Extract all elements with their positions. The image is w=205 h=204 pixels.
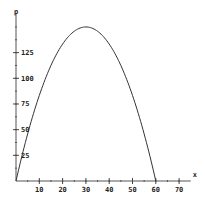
x-tick-label: 20 (58, 186, 66, 194)
data-curve (16, 27, 156, 181)
x-tick-label: 40 (105, 186, 113, 194)
x-axis-label: x (193, 171, 198, 179)
ticks (13, 27, 179, 184)
y-axis-label: p (14, 8, 18, 16)
x-tick-label: 30 (82, 186, 90, 194)
x-tick-label: 50 (128, 186, 136, 194)
y-tick-label: 125 (21, 49, 34, 57)
x-tick-label: 70 (175, 186, 183, 194)
parabola-chart: 10203040506070255075100125 x p (0, 0, 205, 204)
x-tick-label: 10 (35, 186, 43, 194)
y-tick-label: 100 (21, 75, 34, 83)
axes (16, 14, 191, 181)
y-tick-label: 75 (21, 100, 29, 108)
tick-labels: 10203040506070255075100125 (21, 49, 183, 194)
x-tick-label: 60 (152, 186, 160, 194)
